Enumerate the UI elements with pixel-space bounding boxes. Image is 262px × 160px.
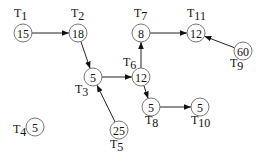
node-value: 25	[113, 124, 125, 138]
node-t11: 12T11	[187, 6, 206, 42]
node-label: T10	[191, 113, 210, 130]
node-t4: 5T4	[13, 118, 44, 139]
node-label: T11	[187, 6, 206, 23]
edge-t5-to-t3	[97, 85, 115, 122]
node-label: T1	[14, 6, 27, 23]
node-value: 12	[190, 27, 202, 41]
node-label: T7	[134, 6, 147, 23]
node-label: T2	[71, 6, 84, 23]
node-value: 60	[237, 45, 249, 59]
node-value: 12	[135, 71, 147, 85]
node-t6: 12T6	[123, 55, 150, 86]
node-t7: 8T7	[132, 6, 150, 42]
node-value: 8	[138, 27, 144, 41]
node-value: 15	[17, 27, 29, 41]
node-value: 5	[90, 71, 96, 85]
nodes-layer: 15T118T25T35T425T512T68T75T860T95T1012T1…	[13, 6, 252, 154]
node-label: T5	[110, 137, 123, 154]
precedence-graph: 15T118T25T35T425T512T68T75T860T95T1012T1…	[0, 0, 262, 160]
node-value: 5	[32, 121, 38, 135]
node-t3: 5T3	[75, 68, 102, 99]
edge-t6-to-t8	[144, 86, 148, 99]
node-label: T8	[145, 113, 158, 130]
node-t9: 60T9	[230, 42, 252, 73]
node-t2: 18T2	[69, 6, 87, 42]
node-label: T3	[75, 82, 88, 99]
node-label: T4	[13, 122, 26, 139]
node-t10: 5T10	[191, 98, 210, 130]
node-label: T9	[230, 56, 243, 73]
edge-t9-to-t11	[204, 36, 234, 48]
node-t8: 5T8	[142, 98, 160, 130]
node-value: 18	[72, 27, 84, 41]
node-t5: 25T5	[110, 121, 128, 154]
node-t1: 15T1	[14, 6, 32, 42]
node-label: T6	[123, 55, 136, 72]
edge-t2-to-t3	[81, 42, 90, 69]
